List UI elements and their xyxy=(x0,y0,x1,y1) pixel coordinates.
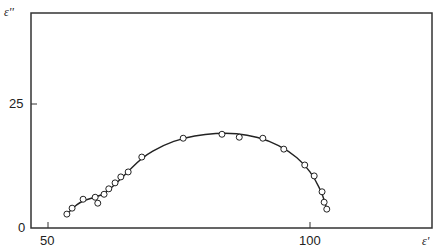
data-point xyxy=(80,196,86,202)
data-point xyxy=(95,200,101,206)
data-point xyxy=(319,189,325,195)
data-point xyxy=(112,180,118,186)
data-point xyxy=(69,205,75,211)
data-point xyxy=(125,169,131,175)
fit-curve xyxy=(67,133,327,214)
data-point xyxy=(311,173,317,179)
data-point xyxy=(260,135,266,141)
x-tick-label-100: 100 xyxy=(299,233,321,248)
chart: ε'' 25 0 50 100 ε' xyxy=(0,0,444,251)
data-point xyxy=(302,162,308,168)
data-point xyxy=(219,131,225,137)
y-tick-label-0: 0 xyxy=(18,220,25,235)
y-axis-label: ε'' xyxy=(4,5,14,20)
x-axis-label: ε' xyxy=(422,234,429,249)
data-point xyxy=(324,206,330,212)
x-tick-label-50: 50 xyxy=(40,233,54,248)
data-point xyxy=(106,186,112,192)
data-point xyxy=(281,146,287,152)
y-tick-label-25: 25 xyxy=(9,96,23,111)
data-point xyxy=(139,154,145,160)
data-point xyxy=(92,194,98,200)
data-point xyxy=(321,199,327,205)
data-point xyxy=(118,174,124,180)
data-point xyxy=(101,191,107,197)
data-point xyxy=(180,135,186,141)
axes-frame xyxy=(31,13,432,228)
data-point xyxy=(236,134,242,140)
plot-area xyxy=(0,0,444,251)
data-point xyxy=(64,211,70,217)
